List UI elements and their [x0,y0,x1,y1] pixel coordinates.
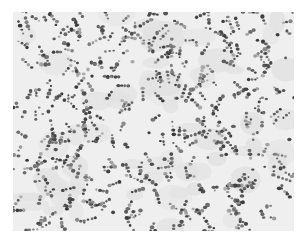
image-canvas [0,0,302,244]
cell-nuclei-layer [13,12,294,231]
micrograph-field [13,12,294,231]
